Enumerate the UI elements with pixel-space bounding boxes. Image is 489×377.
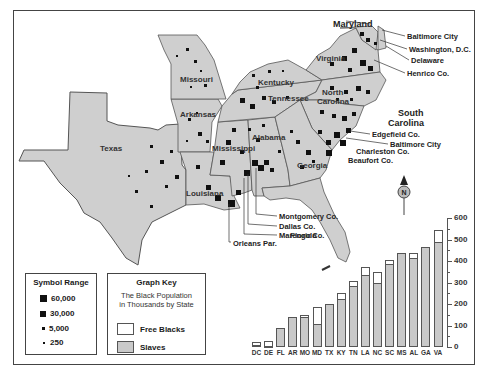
y-tick-label: 100: [454, 321, 467, 330]
y-tick-mark: [447, 347, 452, 348]
y-tick-mark: [447, 293, 450, 294]
y-tick-label: 400: [454, 256, 467, 265]
bar-segment-slaves: [325, 304, 334, 347]
bar-nc: [373, 272, 382, 347]
bar-segment-slaves: [361, 275, 370, 347]
state-label-missouri: Missouri: [180, 76, 213, 84]
y-tick-mark: [447, 272, 450, 273]
symbol-range-legend: Symbol Range 60,000 30,000 5,000 250: [25, 273, 97, 355]
symbol-range-item: 60,000: [40, 294, 75, 303]
bar-segment-slaves: [313, 324, 322, 347]
bar-fl: [276, 328, 285, 347]
y-tick-label: 0: [454, 342, 458, 351]
symbol-range-item: 5,000: [42, 324, 69, 333]
bar-segment-slaves: [288, 317, 297, 347]
graph-key-subtitle-line: in Thousands by State: [108, 300, 205, 309]
legend-label: Slaves: [140, 343, 165, 352]
bar-segment-slaves: [337, 299, 346, 347]
bar-segment-slaves: [409, 258, 418, 347]
state-label-north-carolina-1: North: [322, 89, 343, 97]
state-label-georgia: Georgia: [297, 162, 327, 170]
bar-segment-slaves: [434, 242, 443, 347]
symbol-range-title: Symbol Range: [26, 278, 96, 287]
callout-beaufort-co: Beaufort Co.: [348, 157, 393, 165]
bar-segment-slaves: [300, 317, 309, 347]
square-symbol-icon: [43, 342, 45, 344]
bar-segment-slaves: [264, 346, 273, 348]
callout-south-carolina-1: South: [398, 109, 424, 118]
callout-edgefield-co: Edgefield Co.: [372, 131, 420, 139]
graph-key-subtitle-line: The Black Population: [108, 291, 205, 300]
y-tick-mark: [447, 336, 450, 337]
bar-va: [434, 230, 443, 347]
graph-key-subtitle: The Black Population in Thousands by Sta…: [108, 291, 205, 310]
state-label-texas: Texas: [100, 145, 122, 153]
state-label-alabama: Alabama: [252, 134, 285, 142]
symbol-range-item: 30,000: [40, 309, 74, 318]
legend-label: Free Blacks: [140, 325, 185, 334]
callout-baltimore-city-md: Baltimore City: [407, 33, 458, 41]
y-tick-mark: [447, 261, 452, 262]
graph-key-title: Graph Key: [108, 278, 205, 287]
state-texas: [19, 92, 186, 265]
symbol-label: 250: [50, 338, 63, 347]
state-label-north-carolina-2: Carolina: [317, 98, 349, 106]
bar-md: [313, 307, 322, 347]
x-tick-label: VA: [431, 349, 445, 356]
bar-ar: [288, 317, 297, 347]
graph-key-legend: Graph Key The Black Population in Thousa…: [107, 273, 206, 355]
bar-segment-slaves: [349, 286, 358, 347]
callout-washington-dc: Washington, D.C.: [409, 46, 471, 54]
y-tick-label: 200: [454, 299, 467, 308]
bar-segment-slaves: [385, 264, 394, 347]
state-missouri: [158, 35, 226, 99]
y-tick-label: 600: [454, 213, 467, 222]
legend-item-free-blacks: Free Blacks: [117, 323, 185, 335]
symbol-label: 30,000: [50, 309, 74, 318]
square-symbol-icon: [40, 295, 47, 302]
y-tick-mark: [447, 229, 450, 230]
y-tick-mark: [447, 283, 452, 284]
bar-la: [361, 267, 370, 347]
bar-al: [409, 253, 418, 347]
state-label-arkansas: Arkansas: [180, 111, 216, 119]
state-delaware: [378, 26, 386, 50]
bar-segment-slaves: [421, 247, 430, 347]
y-tick-label: 500: [454, 235, 467, 244]
population-bar-chart: DCDEFLARMOMDTXKYTNLANCSCMSALGAVA01002003…: [248, 210, 478, 360]
bar-segment-slaves: [397, 253, 406, 347]
bar-sc: [385, 260, 394, 347]
bar-segment-slaves: [276, 328, 285, 347]
bar-tn: [349, 281, 358, 347]
state-label-tennessee: Tennessee: [268, 95, 309, 103]
north-arrow-icon: [400, 175, 408, 185]
callout-delaware: Delaware: [411, 57, 444, 65]
y-tick-mark: [447, 304, 452, 305]
state-label-kentucky: Kentucky: [258, 79, 294, 87]
slaves-swatch: [117, 341, 134, 353]
y-tick-mark: [447, 326, 452, 327]
y-tick-mark: [447, 250, 450, 251]
bar-segment-slaves: [252, 345, 261, 347]
compass: N: [397, 175, 411, 215]
symbol-label: 5,000: [49, 324, 69, 333]
symbol-range-item: 250: [43, 338, 63, 347]
square-symbol-icon: [40, 311, 46, 317]
free-blacks-swatch: [117, 323, 134, 335]
bar-ky: [337, 293, 346, 347]
legend-item-slaves: Slaves: [117, 341, 165, 353]
y-tick-mark: [447, 315, 450, 316]
bar-segment-slaves: [373, 283, 382, 348]
square-symbol-icon: [42, 327, 45, 330]
bar-ga: [421, 247, 430, 347]
callout-south-carolina-2: Carolina: [388, 119, 424, 128]
bar-segment-free-blacks: [313, 307, 322, 325]
y-tick-mark: [447, 218, 452, 219]
bar-de: [264, 341, 273, 347]
y-tick-label: 300: [454, 278, 467, 287]
y-tick-mark: [447, 240, 452, 241]
svg-text:N: N: [401, 189, 406, 196]
state-label-virginia: Virginia: [316, 55, 345, 63]
bar-ms: [397, 253, 406, 347]
callout-henrico-co: Henrico Co.: [407, 70, 449, 78]
